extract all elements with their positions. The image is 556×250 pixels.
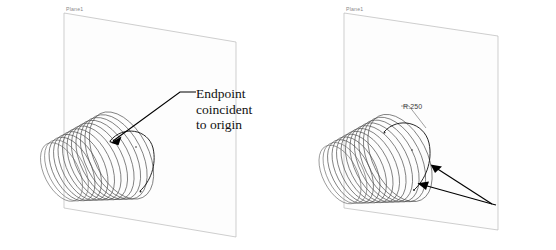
callout-line-1: Endpoint — [196, 86, 252, 102]
radius-dimension-label: R.250 — [403, 103, 422, 110]
pierce-relation-panel: Plane1 R.250 — [278, 0, 556, 250]
arc-end-point — [413, 189, 415, 191]
plane-label: Plane1 — [346, 6, 363, 12]
arc-end-point — [140, 191, 142, 193]
callout-line-3: to origin — [196, 117, 252, 133]
sketch-point — [411, 149, 413, 151]
endpoint-coincident-panel: Plane1 — [0, 0, 278, 250]
arc-start-point — [110, 141, 112, 143]
callout-line-2: coincident — [196, 102, 252, 118]
plane-label: Plane1 — [66, 6, 83, 12]
endpoint-coincident-callout: Endpoint coincident to origin — [196, 86, 252, 133]
right-panel-canvas: Plane1 R.250 — [278, 0, 556, 250]
cad-illustration-figure: Plane1 — [0, 0, 556, 250]
sketch-point — [135, 146, 137, 148]
arc-start-point — [384, 132, 386, 134]
